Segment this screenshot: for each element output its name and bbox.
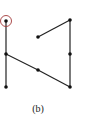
- edge: [38, 70, 70, 87]
- node-n5: [68, 52, 72, 56]
- edge: [6, 54, 38, 70]
- node-n8: [68, 85, 72, 89]
- node-n1: [4, 19, 8, 23]
- node-n3: [68, 18, 72, 22]
- figure-caption: (b): [0, 103, 76, 114]
- node-n7: [4, 85, 8, 89]
- node-n6: [36, 68, 40, 72]
- nodes: [4, 18, 72, 89]
- edge: [38, 20, 70, 37]
- edges: [6, 20, 70, 87]
- node-n4: [4, 52, 8, 56]
- node-n2: [36, 35, 40, 39]
